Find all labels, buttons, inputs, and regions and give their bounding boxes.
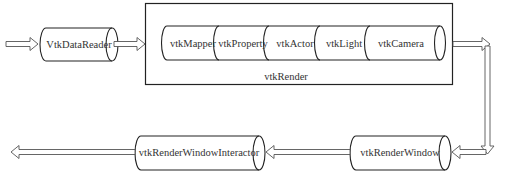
input-arrow xyxy=(6,38,38,51)
render-components-cylinder: vtkMapper vtkProperty vtkActor vtkLight … xyxy=(162,26,446,60)
render-window-label: vtkRenderWindow xyxy=(360,147,440,158)
render-to-window-arrow-right xyxy=(453,38,490,51)
output-arrow xyxy=(11,146,135,159)
render-container-label: vtkRender xyxy=(264,71,308,82)
render-window-cylinder: vtkRenderWindow xyxy=(350,136,451,170)
data-reader-cylinder: VtkDataReader xyxy=(40,28,118,61)
render-to-window-arrow-down xyxy=(481,46,494,154)
component-label-mapper: vtkMapper xyxy=(170,38,217,49)
into-render-window-arrow xyxy=(452,146,486,159)
interactor-label: vtkRenderWindowInteractor xyxy=(139,147,260,158)
component-label-property: vtkProperty xyxy=(218,38,268,49)
interactor-cylinder: vtkRenderWindowInteractor xyxy=(135,136,265,170)
component-label-actor: vtkActor xyxy=(276,38,314,49)
component-label-camera: vtkCamera xyxy=(378,38,424,49)
data-reader-label: VtkDataReader xyxy=(46,39,112,50)
vtk-pipeline-diagram: VtkDataReader vtkRender vtkMapper vtkPro… xyxy=(0,0,506,180)
component-label-light: vtkLight xyxy=(326,38,362,49)
reader-to-render-arrow xyxy=(114,38,145,51)
window-to-interactor-arrow xyxy=(266,146,350,159)
